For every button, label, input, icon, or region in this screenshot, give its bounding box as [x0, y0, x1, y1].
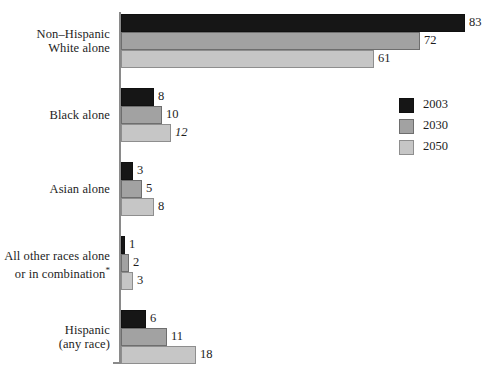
bar-value-label: 83 — [469, 15, 482, 30]
legend-label: 2050 — [423, 139, 448, 154]
bar-value-label: 5 — [146, 181, 152, 196]
category-label-line: (any race) — [0, 337, 110, 352]
bar-value-label: 72 — [424, 33, 437, 48]
bar-2030[interactable] — [121, 180, 142, 198]
category-label: Hispanic(any race) — [0, 323, 110, 352]
category-label-line: White alone — [0, 41, 110, 56]
bar-2030[interactable] — [121, 106, 162, 124]
bar-2050[interactable] — [121, 198, 154, 216]
category-label-line: Hispanic — [0, 323, 110, 338]
bar-value-label: 2 — [133, 255, 139, 270]
bar-value-label: 11 — [171, 329, 183, 344]
legend-label: 2003 — [423, 97, 448, 112]
category-label-line: Black alone — [0, 108, 110, 123]
bar-value-label: 12 — [175, 125, 188, 140]
category-label-line: Non–Hispanic — [0, 27, 110, 42]
legend-swatch-icon — [399, 98, 414, 113]
category-label-line: or in combination* — [0, 263, 110, 282]
bar-2003[interactable] — [121, 88, 154, 106]
category-label: Asian alone — [0, 182, 110, 197]
legend-swatch-icon — [399, 140, 414, 155]
bar-value-label: 1 — [129, 237, 135, 252]
bar-2030[interactable] — [121, 328, 167, 346]
grouped-bar-chart: Non–HispanicWhite alone837261Black alone… — [0, 0, 496, 374]
bar-value-label: 6 — [150, 311, 156, 326]
category-label-line: All other races alone — [0, 249, 110, 264]
category-label-line: Asian alone — [0, 182, 110, 197]
bar-2050[interactable] — [121, 346, 196, 364]
bar-2030[interactable] — [121, 254, 129, 272]
bar-value-label: 8 — [158, 199, 164, 214]
bar-value-label: 3 — [137, 273, 143, 288]
bar-2050[interactable] — [121, 272, 133, 290]
bar-2030[interactable] — [121, 32, 420, 50]
bar-2050[interactable] — [121, 50, 374, 68]
bar-value-label: 3 — [137, 163, 143, 178]
bar-value-label: 8 — [158, 89, 164, 104]
legend-label: 2030 — [423, 118, 448, 133]
bar-2003[interactable] — [121, 14, 465, 32]
bar-2003[interactable] — [121, 310, 146, 328]
bar-2050[interactable] — [121, 124, 171, 142]
bar-value-label: 10 — [166, 107, 179, 122]
category-label: All other races aloneor in combination* — [0, 249, 110, 282]
legend-swatch-icon — [399, 119, 414, 134]
bar-2003[interactable] — [121, 162, 133, 180]
category-label: Non–HispanicWhite alone — [0, 27, 110, 56]
footnote-asterisk: * — [105, 265, 110, 275]
category-label: Black alone — [0, 108, 110, 123]
bar-value-label: 61 — [378, 51, 391, 66]
bar-value-label: 18 — [200, 347, 213, 362]
bar-2003[interactable] — [121, 236, 125, 254]
